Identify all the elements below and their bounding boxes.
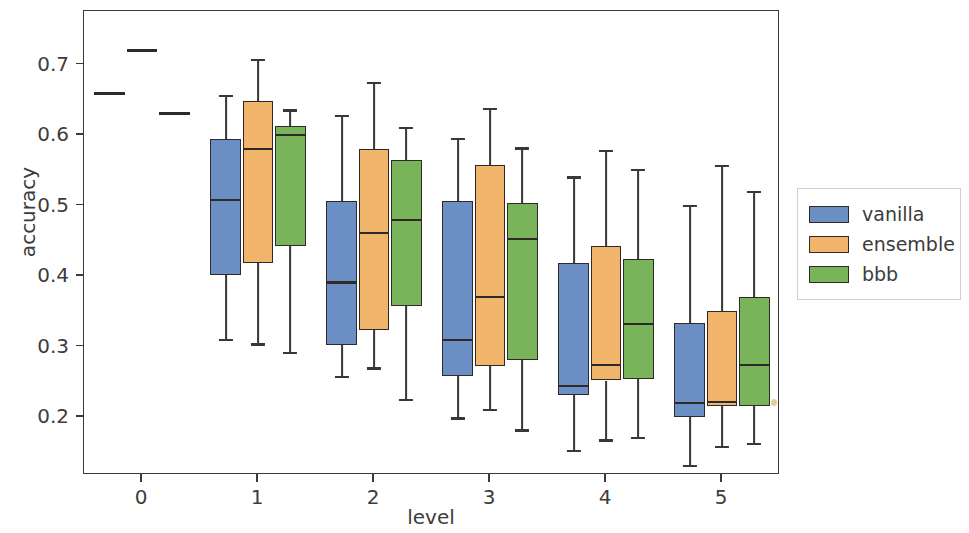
legend-item-ensemble: ensemble (809, 229, 950, 259)
whisker-lower (457, 376, 459, 419)
box (275, 126, 306, 246)
whisker-cap-lower (683, 465, 697, 467)
median-line (275, 134, 306, 136)
legend: vanillaensemblebbb (797, 188, 961, 300)
median-line (591, 364, 622, 366)
whisker-cap-upper (219, 95, 233, 97)
box (391, 160, 422, 307)
whisker-lower (689, 417, 691, 466)
boxplot-data-layer (84, 11, 778, 473)
whisker-upper (573, 177, 575, 262)
whisker-cap-upper (451, 138, 465, 140)
whisker-cap-lower (715, 446, 729, 448)
x-axis-tick-mark (604, 474, 606, 482)
legend-swatch-vanilla (809, 206, 849, 223)
y-axis-label: accuracy (16, 92, 40, 332)
whisker-upper (373, 83, 375, 149)
whisker-cap-lower (631, 437, 645, 439)
whisker-lower (721, 406, 723, 447)
legend-label: ensemble (862, 233, 955, 255)
whisker-lower (225, 275, 227, 340)
whisker-upper (341, 116, 343, 201)
x-axis-tick-mark (140, 474, 142, 482)
whisker-cap-lower (251, 343, 265, 345)
box (326, 201, 357, 344)
whisker-cap-upper (515, 147, 529, 149)
legend-swatch-ensemble (809, 236, 849, 253)
box (243, 101, 274, 263)
median-line (707, 401, 738, 403)
whisker-lower (521, 360, 523, 431)
whisker-lower (489, 366, 491, 410)
y-axis-tick-label: 0.3 (37, 333, 69, 359)
whisker-upper (289, 110, 291, 126)
whisker-upper (489, 109, 491, 165)
x-axis-tick-mark (488, 474, 490, 482)
whisker-cap-upper (251, 59, 265, 61)
y-axis-tick-label: 0.5 (37, 192, 69, 218)
whisker-cap-lower (283, 352, 297, 354)
plot-area (83, 10, 779, 474)
legend-label: bbb (862, 263, 898, 285)
y-axis-tick-label: 0.6 (37, 121, 69, 147)
whisker-cap-upper (483, 108, 497, 110)
median-line (391, 219, 422, 221)
whisker-cap-upper (747, 191, 761, 193)
y-axis-tick-label: 0.2 (37, 403, 69, 429)
median-line (243, 148, 274, 150)
whisker-upper (405, 128, 407, 160)
median-line (442, 339, 473, 341)
whisker-lower (289, 246, 291, 353)
box (442, 201, 473, 376)
y-axis-tick-mark (76, 63, 83, 65)
whisker-lower (605, 381, 607, 441)
box (591, 246, 622, 381)
y-axis-tick-label: 0.4 (37, 262, 69, 288)
whisker-cap-upper (399, 127, 413, 129)
y-axis-tick-mark (76, 274, 83, 276)
box-degenerate-line (94, 92, 125, 95)
scan-artifact (771, 399, 777, 406)
x-axis-tick-mark (372, 474, 374, 482)
whisker-cap-lower (451, 417, 465, 419)
whisker-cap-upper (567, 176, 581, 178)
box-degenerate-line (159, 112, 190, 115)
whisker-lower (405, 306, 407, 400)
whisker-cap-lower (399, 399, 413, 401)
median-line (623, 323, 654, 325)
median-line (359, 232, 390, 234)
whisker-upper (257, 60, 259, 101)
whisker-cap-lower (567, 450, 581, 452)
whisker-cap-upper (683, 205, 697, 207)
whisker-upper (225, 96, 227, 139)
whisker-cap-lower (219, 339, 233, 341)
median-line (674, 402, 705, 404)
x-axis-label: level (83, 505, 779, 529)
whisker-cap-lower (747, 443, 761, 445)
box (623, 259, 654, 379)
whisker-upper (605, 151, 607, 246)
whisker-cap-lower (367, 367, 381, 369)
whisker-lower (373, 330, 375, 369)
whisker-cap-upper (335, 115, 349, 117)
box (739, 297, 770, 406)
whisker-upper (689, 206, 691, 323)
whisker-cap-upper (715, 165, 729, 167)
legend-label: vanilla (862, 203, 924, 225)
whisker-cap-upper (367, 82, 381, 84)
median-line (326, 281, 357, 283)
whisker-lower (637, 379, 639, 438)
median-line (558, 385, 589, 387)
legend-swatch-bbb (809, 266, 849, 283)
whisker-cap-lower (599, 439, 613, 441)
box (359, 149, 390, 330)
whisker-upper (521, 149, 523, 203)
whisker-lower (753, 406, 755, 444)
whisker-cap-upper (283, 109, 297, 111)
whisker-upper (457, 139, 459, 200)
whisker-upper (753, 192, 755, 296)
x-axis-tick-mark (256, 474, 258, 482)
whisker-cap-upper (631, 169, 645, 171)
box-degenerate-line (127, 49, 158, 52)
median-line (507, 238, 538, 240)
